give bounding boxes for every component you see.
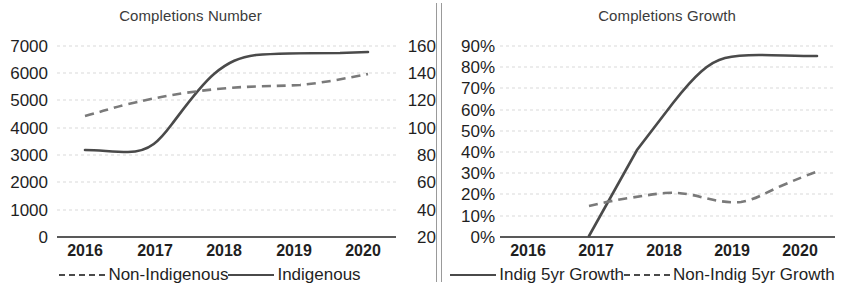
series-line-non-indigenous — [85, 74, 368, 116]
xtick-right-2018: 2018 — [632, 243, 696, 259]
xtick-left-2019: 2019 — [262, 243, 326, 259]
legend-completions-growth: Indig 5yr Growth Non-Indig 5yr Growth — [450, 266, 835, 283]
ytick-right-70pct: 70% — [437, 80, 495, 97]
legend-label-non-indig-5yr-growth: Non-Indig 5yr Growth — [673, 266, 835, 283]
ytick-right-60pct: 60% — [437, 102, 495, 119]
ytick-left-6000: 6000 — [0, 65, 48, 82]
series-line-indig-5yr-growth — [589, 55, 817, 236]
ytick-secondary-100: 100 — [398, 120, 436, 137]
ytick-right-90pct: 90% — [437, 38, 495, 55]
ytick-secondary-40: 40 — [398, 202, 436, 219]
legend-completions-number: Non-Indigenous Indigenous — [10, 266, 410, 283]
ytick-right-40pct: 40% — [437, 144, 495, 161]
legend-label-indig-5yr-growth: Indig 5yr Growth — [499, 266, 624, 283]
ytick-left-0: 0 — [0, 229, 48, 246]
ytick-right-10pct: 10% — [437, 208, 495, 225]
ytick-right-50pct: 50% — [437, 123, 495, 140]
series-line-indigenous — [85, 52, 368, 152]
legend-item-indig-5yr-growth[interactable]: Indig 5yr Growth — [450, 266, 624, 283]
xtick-right-2016: 2016 — [496, 243, 560, 259]
legend-swatch-solid-icon — [450, 274, 496, 276]
ytick-right-30pct: 30% — [437, 165, 495, 182]
xtick-right-2019: 2019 — [700, 243, 764, 259]
xtick-left-2020: 2020 — [331, 243, 395, 259]
ytick-right-20pct: 20% — [437, 186, 495, 203]
xtick-right-2020: 2020 — [768, 243, 832, 259]
ytick-right-80pct: 80% — [437, 59, 495, 76]
gridlines-left — [57, 46, 396, 210]
gridlines-right — [500, 46, 835, 216]
legend-label-indigenous: Indigenous — [277, 266, 360, 283]
ytick-right-0pct: 0% — [437, 229, 495, 246]
legend-swatch-dashed-icon — [59, 274, 105, 276]
xtick-left-2018: 2018 — [192, 243, 256, 259]
ytick-left-2000: 2000 — [0, 174, 48, 191]
dual-chart-figure: Completions Number 7000 6000 5000 4000 — [0, 0, 841, 285]
legend-item-indigenous[interactable]: Indigenous — [228, 266, 360, 283]
ytick-secondary-160: 160 — [398, 38, 436, 55]
ytick-secondary-140: 140 — [398, 65, 436, 82]
xtick-left-2017: 2017 — [123, 243, 187, 259]
ytick-left-1000: 1000 — [0, 202, 48, 219]
ytick-left-7000: 7000 — [0, 38, 48, 55]
legend-label-non-indigenous: Non-Indigenous — [108, 266, 228, 283]
ytick-left-4000: 4000 — [0, 120, 48, 137]
ytick-secondary-80: 80 — [398, 147, 436, 164]
ytick-left-5000: 5000 — [0, 92, 48, 109]
xtick-left-2016: 2016 — [53, 243, 117, 259]
legend-item-non-indig-5yr-growth[interactable]: Non-Indig 5yr Growth — [624, 266, 835, 283]
legend-swatch-solid-icon — [228, 274, 274, 276]
ytick-secondary-120: 120 — [398, 92, 436, 109]
legend-swatch-dashed-icon — [624, 274, 670, 276]
ytick-secondary-60: 60 — [398, 174, 436, 191]
chart-completions-growth: Completions Growth 90% 80% 70% 60% — [437, 0, 841, 285]
chart-completions-number: Completions Number 7000 6000 5000 4000 — [0, 0, 437, 285]
ytick-secondary-20: 20 — [398, 229, 436, 246]
ytick-left-3000: 3000 — [0, 147, 48, 164]
legend-item-non-indigenous[interactable]: Non-Indigenous — [59, 266, 228, 283]
xtick-right-2017: 2017 — [564, 243, 628, 259]
